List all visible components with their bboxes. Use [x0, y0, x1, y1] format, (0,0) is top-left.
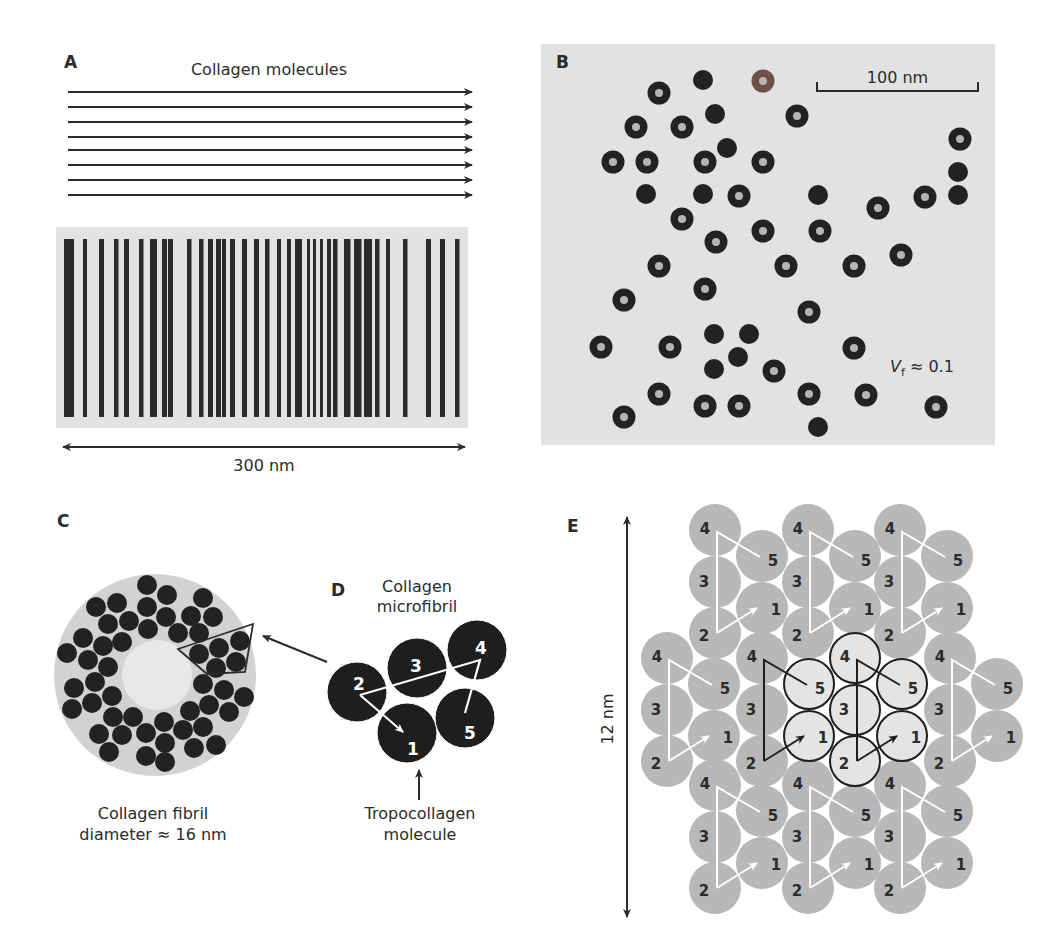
fibril-hole: [759, 158, 767, 166]
fibril-hole: [862, 391, 870, 399]
lattice-number: 1: [771, 601, 781, 619]
band-bar: [83, 239, 87, 417]
molecule-dot: [64, 678, 84, 698]
lattice-circle: [874, 811, 926, 863]
panel-label-e: E: [567, 516, 579, 536]
molecule-dot: [103, 707, 123, 727]
lattice-number: 3: [699, 573, 709, 591]
molecule-dot: [173, 720, 193, 740]
molecule-dot: [93, 636, 113, 656]
molecule-dot: [214, 680, 234, 700]
fibril-caption-line2: diameter ≈ 16 nm: [79, 825, 226, 844]
filled-fibril: [808, 417, 828, 437]
lattice-circle: [874, 556, 926, 608]
band-bar: [295, 239, 302, 417]
fibril-hole: [816, 227, 824, 235]
lattice-number: 1: [956, 856, 966, 874]
molecule-number: 3: [410, 656, 422, 676]
band-bar: [403, 239, 408, 417]
molecule-dot: [206, 735, 226, 755]
lattice-number: 3: [934, 701, 944, 719]
band-bar: [277, 239, 281, 417]
molecule-dot: [206, 658, 226, 678]
lattice-number: 5: [861, 552, 871, 570]
molecule-dot: [181, 606, 201, 626]
lattice-number: 2: [746, 755, 756, 773]
lattice-number: 4: [652, 648, 662, 666]
lattice-number: 2: [699, 627, 709, 645]
lattice-number: 4: [793, 520, 803, 538]
molecule-dot: [154, 712, 174, 732]
molecule-dot: [136, 723, 156, 743]
panel-c: C Collagen fibril diameter ≈ 16 nm: [54, 511, 327, 844]
tropocollagen-caption-line2: molecule: [384, 825, 457, 844]
lattice-number: 4: [885, 775, 895, 793]
lattice-number: 4: [747, 648, 757, 666]
lattice-number: 5: [720, 680, 730, 698]
molecule-dot: [107, 593, 127, 613]
lattice-number: 4: [700, 775, 710, 793]
lattice-circle: [736, 530, 788, 582]
band-bar: [150, 239, 157, 417]
fibril-hole: [759, 77, 767, 85]
band-bar: [287, 239, 291, 417]
band-bar: [386, 239, 390, 417]
molecule-dot: [78, 650, 98, 670]
fibril-hole: [874, 204, 882, 212]
molecule-dot: [89, 724, 109, 744]
lattice-circle: [641, 632, 693, 684]
fibril-hole: [655, 89, 663, 97]
lattice-number: 1: [771, 856, 781, 874]
lattice-circle: [924, 632, 976, 684]
molecule-dot: [99, 742, 119, 762]
molecule-dot: [119, 611, 139, 631]
fibril-hole: [932, 403, 940, 411]
lattice-circle: [641, 684, 693, 736]
fibril-hole: [956, 135, 964, 143]
molecule-number: 1: [407, 739, 419, 759]
band-bar: [230, 239, 235, 417]
band-bar: [344, 239, 351, 417]
filled-fibril: [704, 359, 724, 379]
molecule-dot: [82, 693, 102, 713]
lattice-number: 1: [956, 601, 966, 619]
microfibril-title-line2: microfibril: [377, 597, 458, 616]
band-bar: [313, 239, 316, 417]
lattice-number: 3: [746, 701, 756, 719]
lattice-number: 4: [840, 648, 850, 666]
lattice-number: 2: [839, 755, 849, 773]
lattice-number: 3: [839, 701, 849, 719]
lattice-number: 1: [723, 729, 733, 747]
lattice-number: 5: [768, 552, 778, 570]
molecule-dot: [193, 674, 213, 694]
lattice-number: 4: [885, 520, 895, 538]
microfibril-circle: [830, 736, 880, 786]
band-bar: [139, 239, 144, 417]
lattice-number: 2: [934, 755, 944, 773]
panel-label-a: A: [64, 52, 78, 72]
filled-fibril: [948, 162, 968, 182]
lattice-number: 2: [699, 882, 709, 900]
molecule-dot: [137, 597, 157, 617]
filled-fibril: [728, 347, 748, 367]
lattice-circle: [829, 530, 881, 582]
lattice-circle: [782, 607, 834, 659]
molecule-dot: [86, 597, 106, 617]
lattice-circle: [782, 504, 834, 556]
band-bar: [364, 239, 372, 417]
lattice-number: 5: [768, 807, 778, 825]
lattice-circle: [736, 785, 788, 837]
microfibril-circle: [830, 633, 880, 683]
band-bar: [307, 239, 310, 417]
fibril-hole: [735, 192, 743, 200]
lattice-circle: [921, 530, 973, 582]
collagen-hierarchy-figure: A Collagen molecules 300 nm B 100 nm Vf …: [0, 0, 1062, 946]
molecule-dot: [138, 619, 158, 639]
molecule-dot: [219, 702, 239, 722]
molecule-dot: [157, 585, 177, 605]
lattice-circle: [689, 862, 741, 914]
filled-fibril: [693, 70, 713, 90]
lattice-number: 3: [651, 701, 661, 719]
lattice-number: 3: [792, 828, 802, 846]
band-bar: [354, 239, 362, 417]
